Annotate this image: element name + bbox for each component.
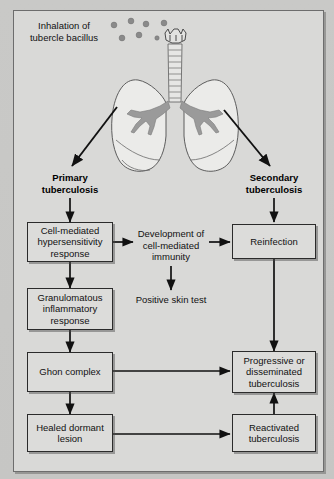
branch-label-secondary-line1: Secondary (232, 172, 316, 184)
trachea-icon (168, 44, 182, 102)
branch-label-primary-line2: tuberculosis (28, 184, 112, 196)
node-reactivated-tuberculosis[interactable]: Reactivated tuberculosis (232, 414, 316, 452)
inhalation-caption: Inhalation of tubercle bacillus (20, 20, 108, 44)
branch-label-primary: Primary tuberculosis (28, 172, 112, 195)
branch-label-secondary-line2: tuberculosis (232, 184, 316, 196)
node-cell-mediated-hypersensitivity[interactable]: Cell-mediated hypersensitivity response (27, 222, 113, 262)
figure-root: Inhalation of tubercle bacillus Primary … (0, 0, 334, 479)
arrow-to-primary (72, 107, 117, 166)
node-reinfection[interactable]: Reinfection (232, 224, 316, 259)
node-ghon-complex[interactable]: Ghon complex (27, 352, 113, 392)
node-healed-dormant-lesion[interactable]: Healed dormant lesion (27, 414, 113, 452)
node-progressive-disseminated-tuberculosis[interactable]: Progressive or disseminated tuberculosis (232, 351, 316, 393)
node-granulomatous-inflammatory-response[interactable]: Granulomatous inflammatory response (27, 288, 113, 330)
branch-label-secondary: Secondary tuberculosis (232, 172, 316, 195)
label-development-cell-mediated-immunity: Development of cell-mediated immunity (128, 228, 214, 263)
label-positive-skin-test: Positive skin test (134, 294, 208, 306)
larynx-icon (165, 29, 186, 43)
branch-label-primary-line1: Primary (28, 172, 112, 184)
tubercle-bacillus-dots (111, 18, 167, 41)
